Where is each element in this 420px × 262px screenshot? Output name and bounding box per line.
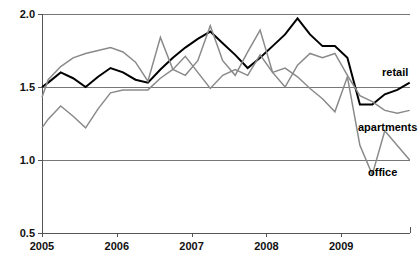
line-chart: 2.01.51.00.5 20052006200720082009 retail… xyxy=(0,0,420,262)
x-tick-label-2007: 2007 xyxy=(179,240,203,252)
y-tick-label-0-5: 0.5 xyxy=(20,227,35,239)
series-paths-group xyxy=(42,18,410,174)
y-tick-labels-group: 2.01.51.00.5 xyxy=(20,8,35,239)
x-tick-label-2006: 2006 xyxy=(105,240,129,252)
series-line-apartments xyxy=(42,26,410,114)
y-tick-label-1-0: 1.0 xyxy=(20,154,35,166)
series-line-retail xyxy=(42,18,410,104)
x-tick-labels-group: 20052006200720082009 xyxy=(30,240,354,252)
x-tick-label-2005: 2005 xyxy=(30,240,54,252)
series-line-office xyxy=(42,55,410,175)
y-tick-label-1-5: 1.5 xyxy=(20,81,35,93)
chart-container: 2.01.51.00.5 20052006200720082009 retail… xyxy=(0,0,420,262)
series-label-office: office xyxy=(368,166,397,178)
x-tick-label-2008: 2008 xyxy=(254,240,278,252)
y-tick-label-2-0: 2.0 xyxy=(20,8,35,20)
series-label-retail: retail xyxy=(382,66,408,78)
x-tick-label-2009: 2009 xyxy=(329,240,353,252)
series-label-apartments: apartments xyxy=(358,121,417,133)
